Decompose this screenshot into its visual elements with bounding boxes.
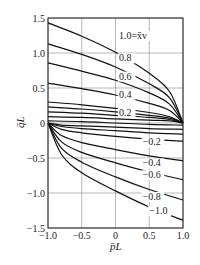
y-tick-label: 1.0 <box>33 48 46 59</box>
x-tick-label: 0.5 <box>143 230 156 241</box>
y-axis-label: q̄L <box>14 116 26 128</box>
curve-label: −0.4 <box>143 157 161 168</box>
y-tick-label: 0 <box>40 118 45 129</box>
x-tick-label: −0.5 <box>73 230 91 241</box>
x-axis-label: p̄L <box>109 240 122 252</box>
x-tick-label: 1.0 <box>177 230 190 241</box>
curve-label: 0.2 <box>119 107 132 118</box>
curve-label: −0.6 <box>143 169 161 180</box>
curve-label: 0.8 <box>119 52 132 63</box>
y-tick-label: 1.5 <box>33 13 46 24</box>
curve-label: 1.0=x̄v <box>119 30 147 41</box>
y-tick-label: −0.5 <box>27 153 45 164</box>
y-axis-ticks: 1.51.00.50−0.5−1.0−1.5 <box>27 13 45 234</box>
curve-label: −0.8 <box>143 191 161 202</box>
curve-label: 0.4 <box>119 89 132 100</box>
curve-label: 0.6 <box>119 71 132 82</box>
chart: 1.51.00.50−0.5−1.0−1.5 −1.0−0.500.51.0 1… <box>0 0 200 265</box>
y-tick-label: 0.5 <box>33 83 46 94</box>
curve-label: −0.2 <box>143 136 161 147</box>
curve-label: −1.0 <box>149 205 167 216</box>
x-tick-label: −1.0 <box>39 230 57 241</box>
y-tick-label: −1.0 <box>27 188 45 199</box>
